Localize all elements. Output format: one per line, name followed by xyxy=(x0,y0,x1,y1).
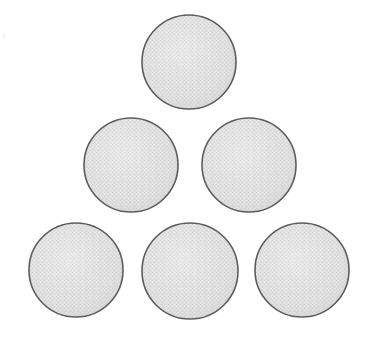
circles-illustration xyxy=(0,0,376,343)
circle-top-1[interactable] xyxy=(142,15,236,109)
circle-bottom-2[interactable] xyxy=(142,223,238,319)
circle-middle-2[interactable] xyxy=(202,118,296,212)
circle-bottom-3[interactable] xyxy=(255,223,349,317)
circle-bottom-1[interactable] xyxy=(29,223,123,317)
bottom-row xyxy=(29,223,349,319)
figure-canvas xyxy=(0,0,376,343)
circle-middle-1[interactable] xyxy=(84,118,178,212)
top-row xyxy=(142,15,236,109)
